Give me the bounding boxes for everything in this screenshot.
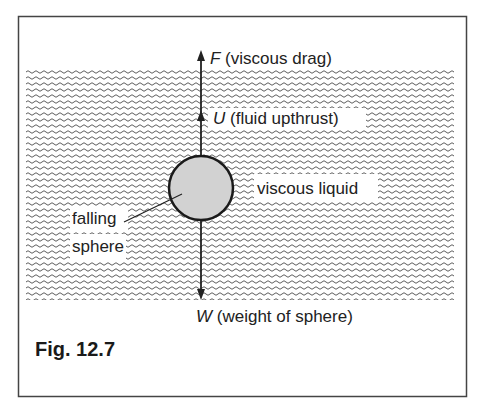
figure-caption: Fig. 12.7 bbox=[35, 338, 115, 360]
viscous-liquid-region bbox=[26, 69, 454, 300]
drag-label: F (viscous drag) bbox=[210, 49, 332, 68]
sphere-label-line2: sphere bbox=[72, 237, 124, 256]
sphere-label-line1: falling bbox=[72, 209, 116, 228]
diagram-canvas: F (viscous drag) U (fluid upthrust) visc… bbox=[0, 0, 485, 406]
liquid-label: viscous liquid bbox=[257, 179, 358, 198]
upthrust-label: U (fluid upthrust) bbox=[213, 109, 339, 128]
figure-12-7: F (viscous drag) U (fluid upthrust) visc… bbox=[0, 0, 485, 406]
falling-sphere bbox=[169, 156, 233, 220]
weight-label: W (weight of sphere) bbox=[196, 307, 353, 326]
